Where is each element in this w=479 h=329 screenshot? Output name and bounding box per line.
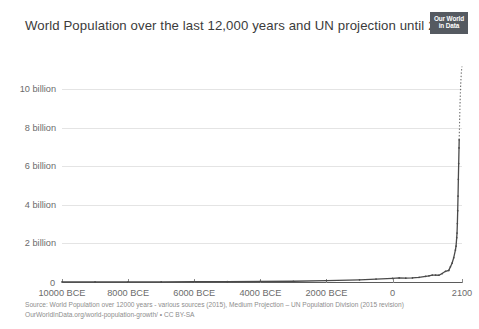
data-point — [456, 237, 458, 239]
x-axis-tick-label: 0 — [390, 288, 395, 298]
data-point — [359, 279, 361, 281]
data-point — [425, 275, 427, 277]
y-axis-zero-label: 0 — [50, 278, 55, 288]
source-line: Source: World Population over 12000 year… — [25, 300, 404, 310]
source-note: Source: World Population over 12000 year… — [25, 300, 404, 319]
data-point — [94, 281, 96, 283]
y-axis-tick-label: 4 billion — [25, 200, 56, 210]
data-point — [375, 278, 377, 280]
data-point-dots — [61, 139, 460, 283]
data-point — [405, 277, 407, 279]
data-point — [458, 139, 460, 141]
license-line[interactable]: OurWorldInData.org/world-population-grow… — [25, 310, 404, 320]
data-point — [457, 223, 459, 225]
data-point — [448, 270, 450, 272]
x-axis-tick-label: 10000 BCE — [39, 288, 86, 298]
data-point — [451, 262, 453, 264]
data-point — [260, 281, 262, 283]
data-point — [455, 245, 457, 247]
our-world-in-data-logo[interactable]: Our World in Data — [430, 12, 468, 34]
data-point — [392, 278, 394, 280]
data-point — [450, 266, 452, 268]
x-axis-tick-mark — [462, 279, 463, 283]
data-point — [398, 277, 400, 279]
population-series — [62, 70, 462, 282]
data-point — [293, 280, 295, 282]
data-point — [326, 280, 328, 282]
logo-line-2: in Data — [430, 22, 468, 29]
data-point — [456, 232, 458, 234]
data-point — [435, 274, 437, 276]
data-point — [193, 281, 195, 283]
data-point — [453, 257, 455, 259]
data-point — [438, 274, 440, 276]
x-axis-tick-label: 6000 BCE — [173, 288, 215, 298]
data-point — [457, 195, 459, 197]
data-point — [458, 178, 460, 180]
x-axis-tick-label: 4000 BCE — [239, 288, 281, 298]
projection-line — [459, 66, 462, 139]
data-point — [418, 277, 420, 279]
data-point — [226, 281, 228, 283]
data-point — [458, 163, 460, 165]
data-point — [61, 281, 63, 283]
y-axis-tick-label: 10 billion — [20, 84, 56, 94]
y-axis-tick-label: 8 billion — [25, 123, 56, 133]
plot-area: 2 billion4 billion6 billion8 billion10 b… — [62, 70, 462, 282]
data-point — [458, 147, 460, 149]
data-point — [428, 275, 430, 277]
data-point — [457, 210, 459, 212]
x-axis-tick-label: 2100 — [452, 288, 472, 298]
data-point — [431, 274, 433, 276]
data-point — [160, 281, 162, 283]
data-point — [412, 277, 414, 279]
historical-line — [62, 140, 459, 282]
x-axis-tick-label: 2000 BCE — [306, 288, 348, 298]
page-title: World Population over the last 12,000 ye… — [25, 18, 458, 33]
data-point — [127, 281, 129, 283]
owid-chart-card: World Population over the last 12,000 ye… — [0, 0, 479, 329]
data-point — [441, 273, 443, 275]
y-axis-tick-label: 2 billion — [25, 238, 56, 248]
data-point — [445, 270, 447, 272]
y-axis-tick-label: 6 billion — [25, 161, 56, 171]
logo-line-1: Our World — [430, 15, 468, 22]
data-point — [455, 249, 457, 251]
x-axis-tick-label: 8000 BCE — [107, 288, 149, 298]
